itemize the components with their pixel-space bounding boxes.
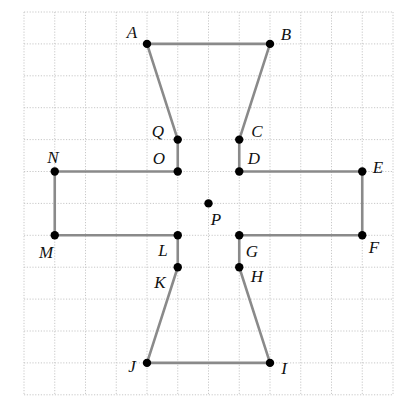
- label-b: B: [281, 25, 292, 44]
- vertex-f: [358, 231, 366, 239]
- vertex-d: [235, 167, 243, 175]
- vertex-l: [174, 231, 182, 239]
- label-j: J: [128, 357, 137, 376]
- vertex-i: [266, 359, 274, 367]
- vertex-g: [235, 231, 243, 239]
- label-n: N: [46, 148, 60, 167]
- label-c: C: [251, 122, 263, 141]
- vertex-c: [235, 135, 243, 143]
- label-p: P: [210, 210, 221, 229]
- label-q: Q: [152, 122, 164, 141]
- vertex-m: [51, 231, 59, 239]
- vertex-n: [51, 167, 59, 175]
- vertex-p: [204, 199, 212, 207]
- label-o: O: [153, 149, 165, 168]
- vertex-a: [143, 40, 151, 48]
- grid-diagram: ABCDEFGHIJKLMNOQP: [0, 0, 404, 413]
- label-e: E: [372, 158, 384, 177]
- vertex-o: [174, 167, 182, 175]
- label-f: F: [368, 238, 380, 257]
- label-g: G: [246, 242, 258, 261]
- label-m: M: [38, 243, 54, 262]
- label-l: L: [157, 241, 167, 260]
- vertex-b: [266, 40, 274, 48]
- vertex-e: [358, 167, 366, 175]
- label-h: H: [250, 267, 265, 286]
- vertex-j: [143, 359, 151, 367]
- vertex-h: [235, 263, 243, 271]
- label-a: A: [126, 23, 138, 42]
- vertex-q: [174, 135, 182, 143]
- label-i: I: [280, 359, 288, 378]
- label-k: K: [153, 273, 167, 292]
- label-d: D: [247, 149, 261, 168]
- vertex-k: [174, 263, 182, 271]
